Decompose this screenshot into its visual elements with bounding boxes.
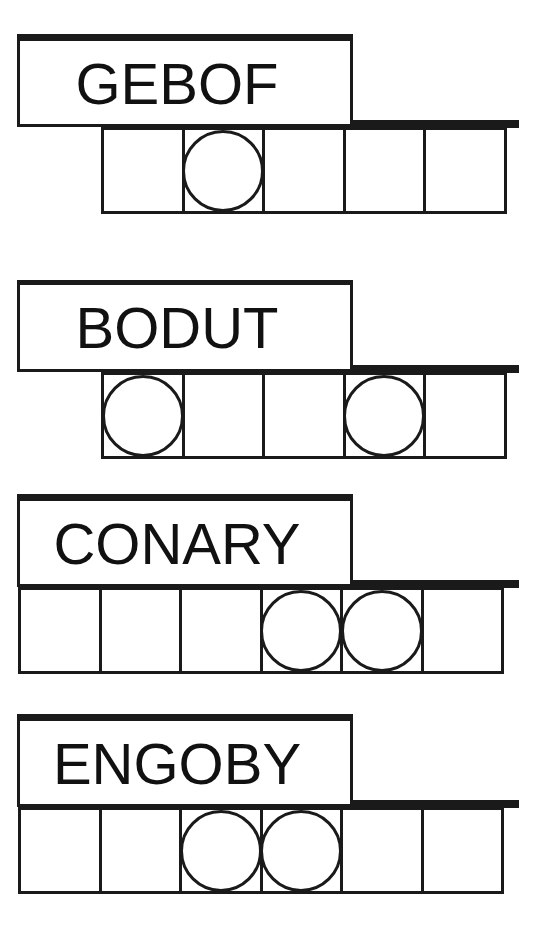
letter-box-1[interactable] [101, 127, 185, 214]
letter-box-5-circled[interactable] [340, 587, 424, 674]
letter [102, 590, 180, 671]
letter-box-3[interactable] [262, 127, 346, 214]
letter [21, 590, 99, 671]
letter [424, 590, 502, 671]
letter-box-4-circled[interactable] [343, 372, 427, 459]
scrambled-word: CONARY [53, 513, 300, 573]
scrambled-word-box: CONARY [17, 494, 353, 587]
letter [263, 590, 341, 671]
letter-box-1[interactable] [18, 807, 102, 894]
answer-row [18, 807, 504, 894]
letter-box-2[interactable] [99, 587, 183, 674]
letter-box-6[interactable] [421, 587, 505, 674]
letter-box-4[interactable] [343, 127, 427, 214]
letter [263, 810, 341, 891]
letter-box-5[interactable] [423, 127, 507, 214]
scrambled-word-box: GEBOF [17, 34, 353, 127]
letter [182, 810, 260, 891]
answer-row [101, 127, 507, 214]
letter-box-3[interactable] [179, 587, 263, 674]
scrambled-word: ENGOBY [53, 733, 301, 793]
letter-box-1[interactable] [18, 587, 102, 674]
answer-row [101, 372, 507, 459]
letter [102, 810, 180, 891]
letter [426, 375, 504, 456]
scrambled-word-box: ENGOBY [17, 714, 353, 807]
letter [346, 375, 424, 456]
letter-box-3-circled[interactable] [179, 807, 263, 894]
letter [104, 375, 182, 456]
letter-box-2[interactable] [182, 372, 266, 459]
letter-box-4-circled[interactable] [260, 587, 344, 674]
letter [185, 130, 263, 211]
letter-box-1-circled[interactable] [101, 372, 185, 459]
letter-box-5[interactable] [340, 807, 424, 894]
scrambled-word: BODUT [76, 297, 279, 357]
answer-row [18, 587, 504, 674]
letter [343, 590, 421, 671]
letter [265, 130, 343, 211]
scrambled-word-box: BODUT [17, 280, 353, 372]
letter [182, 590, 260, 671]
letter-box-2-circled[interactable] [182, 127, 266, 214]
letter-box-2[interactable] [99, 807, 183, 894]
letter [185, 375, 263, 456]
letter [343, 810, 421, 891]
letter-box-3[interactable] [262, 372, 346, 459]
scrambled-word: GEBOF [75, 53, 278, 113]
letter [346, 130, 424, 211]
letter [21, 810, 99, 891]
letter-box-6[interactable] [421, 807, 505, 894]
letter [265, 375, 343, 456]
letter [426, 130, 504, 211]
letter-box-4-circled[interactable] [260, 807, 344, 894]
letter [424, 810, 502, 891]
letter-box-5[interactable] [423, 372, 507, 459]
letter [104, 130, 182, 211]
